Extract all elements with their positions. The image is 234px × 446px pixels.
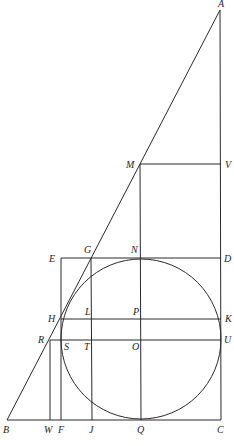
line-segments [7,10,221,420]
hypotenuse-AB [7,10,220,420]
point-label-g: G [84,244,91,255]
side-AC [220,10,221,420]
point-label-f: F [57,424,65,435]
point-label-d: D [223,253,232,264]
point-label-m: M [125,159,135,170]
point-label-q: Q [137,424,145,435]
point-label-w: W [44,424,54,435]
point-label-n: N [130,244,139,255]
point-label-u: U [224,334,232,345]
point-label-p: P [132,306,139,317]
point-label-j: J [89,424,94,435]
point-label-k: K [224,313,233,324]
point-label-b: B [3,424,9,435]
point-label-c: C [217,424,224,435]
point-label-s: S [64,341,69,352]
geometry-diagram: AMVEGNDHLPKRSTOUBWFJQC [0,0,234,446]
segment-GJ [91,258,92,420]
point-label-r: R [37,334,44,345]
point-labels: AMVEGNDHLPKRSTOUBWFJQC [3,0,233,435]
point-label-o: O [132,341,139,352]
point-label-a: A [217,0,225,9]
segment-MQ [140,164,141,420]
point-label-h: H [47,313,56,324]
point-label-t: T [84,341,91,352]
point-label-v: V [225,159,233,170]
point-label-e: E [48,253,55,264]
point-label-l: L [84,306,91,317]
